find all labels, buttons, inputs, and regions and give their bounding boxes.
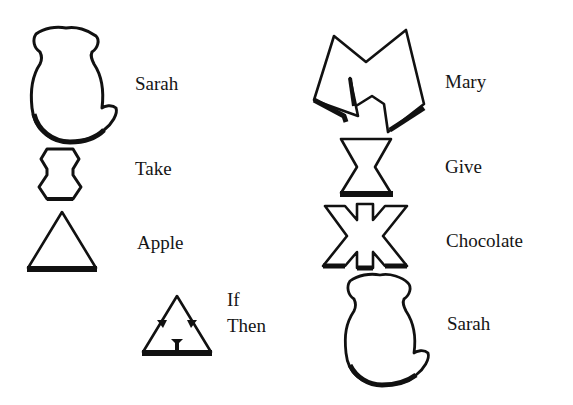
star-shape-icon (321, 202, 413, 270)
if-then-triangle-symbol (141, 294, 213, 358)
sarah-monkey-symbol-right (340, 273, 420, 389)
label-then: Then (227, 316, 266, 335)
give-hourglass-symbol (339, 137, 395, 199)
label-if: If (227, 290, 240, 309)
monkey-icon (26, 26, 106, 146)
hourglass-icon (339, 137, 395, 199)
label-sarah-right: Sarah (447, 314, 490, 333)
if-then-triangle-icon (141, 294, 213, 358)
label-chocolate: Chocolate (446, 231, 523, 250)
apple-triangle-symbol (26, 210, 98, 274)
take-symbol (37, 147, 85, 201)
label-give: Give (445, 157, 482, 176)
m-shape-icon (310, 28, 430, 138)
label-sarah-left: Sarah (135, 74, 178, 93)
label-mary: Mary (445, 72, 486, 91)
triangle-icon (26, 210, 98, 274)
mary-m-symbol (310, 28, 430, 138)
label-apple: Apple (137, 233, 183, 252)
take-icon (37, 147, 85, 201)
label-take: Take (135, 159, 172, 178)
monkey-icon (340, 273, 420, 389)
sarah-monkey-symbol-left (26, 26, 106, 146)
chocolate-symbol (321, 202, 413, 270)
